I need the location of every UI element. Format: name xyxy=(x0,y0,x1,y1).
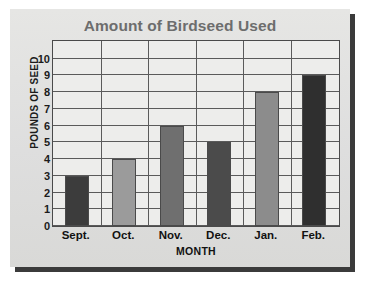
y-tick-label: 6 xyxy=(30,121,50,132)
gridline-vertical xyxy=(101,41,102,226)
x-tick-label: Sept. xyxy=(52,229,100,241)
x-axis-tick-labels: Sept.Oct.Nov.Dec.Jan.Feb. xyxy=(52,229,340,245)
plot-frame xyxy=(52,40,340,227)
y-tick-label: 1 xyxy=(30,204,50,215)
y-tick-label: 3 xyxy=(30,171,50,182)
x-tick-label: Nov. xyxy=(147,229,195,241)
x-tick-label: Oct. xyxy=(100,229,148,241)
gridline-vertical xyxy=(243,41,244,226)
bar-oct xyxy=(112,159,136,226)
y-tick-label: 2 xyxy=(30,188,50,199)
y-tick-label: 5 xyxy=(30,137,50,148)
bar-nov xyxy=(160,126,184,226)
y-axis-tick-labels: 109876543210 xyxy=(24,40,50,227)
y-tick-label: 0 xyxy=(30,221,50,232)
bar-sept xyxy=(65,176,89,226)
x-tick-label: Feb. xyxy=(290,229,338,241)
gridline-vertical xyxy=(148,41,149,226)
gridline-vertical xyxy=(291,41,292,226)
y-tick-label: 10 xyxy=(30,54,50,65)
chart-screenshot: Amount of Birdseed Used POUNDS OF SEED 1… xyxy=(0,0,366,282)
bar-jan xyxy=(255,92,279,226)
y-tick-label: 4 xyxy=(30,154,50,165)
y-tick-label: 8 xyxy=(30,87,50,98)
x-tick-label: Jan. xyxy=(242,229,290,241)
chart-title: Amount of Birdseed Used xyxy=(10,17,350,35)
chart-card: Amount of Birdseed Used POUNDS OF SEED 1… xyxy=(10,9,350,267)
y-tick-label: 9 xyxy=(30,70,50,81)
x-tick-label: Dec. xyxy=(195,229,243,241)
plot-area xyxy=(53,41,339,226)
bar-feb xyxy=(302,75,326,226)
x-axis-title: MONTH xyxy=(52,245,340,257)
y-tick-label: 7 xyxy=(30,104,50,115)
gridline-vertical xyxy=(196,41,197,226)
bar-dec xyxy=(207,142,231,226)
